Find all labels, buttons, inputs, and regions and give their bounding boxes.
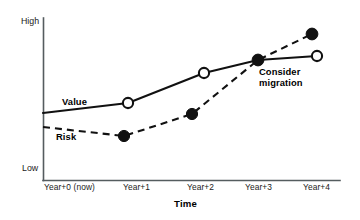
x-tick-label-year2: Year+2	[187, 183, 214, 192]
x-tick-label-year4: Year+4	[303, 183, 330, 192]
series-label-value: Value	[62, 97, 87, 108]
value-marker-year4	[312, 51, 322, 61]
x-tick-label-year3: Year+3	[245, 183, 272, 192]
x-axis-title: Time	[174, 199, 197, 210]
annotation-consider-migration: Consider migration	[259, 66, 303, 89]
y-axis-high-label: High	[21, 17, 39, 27]
x-tick-label-year0: Year+0 (now)	[44, 183, 95, 192]
value-marker-year1	[123, 98, 133, 108]
chart-container: High Low Value Risk Consider migration Y…	[0, 0, 360, 220]
risk-marker-year1	[118, 130, 129, 141]
y-axis-low-label: Low	[22, 164, 38, 174]
risk-marker-year3	[252, 54, 264, 66]
value-marker-year2	[199, 68, 209, 78]
x-tick-label-year1: Year+1	[123, 183, 150, 192]
risk-marker-year2	[186, 108, 197, 119]
annotation-line-1: Consider	[259, 66, 303, 77]
annotation-line-2: migration	[259, 77, 303, 88]
risk-marker-year4	[306, 28, 318, 40]
series-label-risk: Risk	[56, 132, 76, 143]
